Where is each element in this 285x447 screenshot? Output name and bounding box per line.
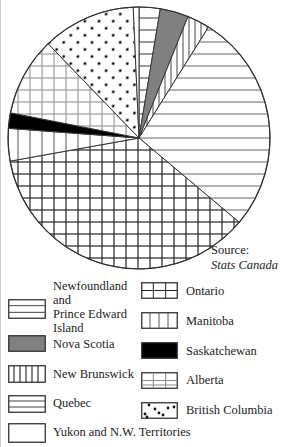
pie-chart [0,0,285,280]
swatch-black-icon [141,342,178,359]
legend-label: Ontario [186,284,224,298]
swatch-grid-dark-icon [141,282,178,299]
legend-label: New Brunswick [53,367,134,381]
legend-label: Nova Scotia [53,337,114,351]
swatch-grey-icon [8,335,46,352]
swatch-vlines-icon [141,312,178,329]
swatch-blank-icon [8,423,46,443]
swatch-hlines-icon [8,395,46,413]
swatch-vlines-dense-icon [8,365,46,383]
swatch-grid-light-icon [141,372,178,389]
legend-label: British Columbia [186,403,272,417]
legend-label: Saskatchewan [186,344,257,358]
legend-label: Newfoundland and Prince Edward Island [53,279,127,335]
legend-label: Manitoba [186,314,234,328]
legend-label: Quebec [53,396,91,410]
swatch-hlines-boxed-icon [8,299,46,319]
source-label: Source: [211,243,278,258]
source-org: Stats Canada [211,258,278,273]
source-note: Source: Stats Canada [211,243,278,273]
legend-label: Yukon and N.W. Territories [53,425,191,439]
legend-label: Alberta [186,373,223,387]
swatch-dots-icon [141,402,178,419]
pie-slices [8,7,270,269]
